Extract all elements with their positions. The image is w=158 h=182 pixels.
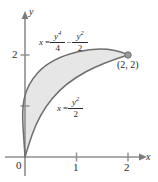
lower-eq-denominator: 2 xyxy=(68,108,83,119)
upper-eq-lhs: x xyxy=(39,38,43,47)
x-tick-label-2: 2 xyxy=(124,162,130,173)
lower-curve-equation: x = y2 2 xyxy=(57,98,81,119)
lower-eq-numerator: y2 xyxy=(70,98,81,108)
upper-eq-term2-denominator: 2 xyxy=(72,42,87,53)
origin-label: 0 xyxy=(16,160,22,171)
figure-canvas xyxy=(0,0,158,182)
upper-eq-term2-exponent: 2 xyxy=(80,29,83,36)
upper-curve-equation: x = y4 4 − y2 2 xyxy=(39,32,86,53)
lower-eq-lhs: x xyxy=(57,104,61,113)
y-axis-name: y xyxy=(29,7,33,17)
upper-eq-term1-denominator: 4 xyxy=(50,42,65,53)
upper-eq-operator: − xyxy=(66,38,71,47)
figure-region-between-curves: 0 1 2 2 x y (2, 2) x = y4 4 − y2 2 x = y… xyxy=(0,0,158,182)
y-axis-arrow xyxy=(22,11,29,19)
upper-eq-term1-numerator: y4 xyxy=(52,32,63,42)
upper-eq-term1: y4 4 xyxy=(52,32,63,53)
x-tick-label-1: 1 xyxy=(73,162,79,173)
intersection-point-marker xyxy=(125,52,131,58)
y-tick-label-2: 2 xyxy=(12,49,18,60)
lower-eq-exponent: 2 xyxy=(76,95,79,102)
x-axis-name: x xyxy=(146,152,150,162)
upper-eq-term2-numerator: y2 xyxy=(74,32,85,42)
lower-eq-fraction: y2 2 xyxy=(70,98,81,119)
upper-eq-term2: y2 2 xyxy=(74,32,85,53)
upper-eq-term1-exponent: 4 xyxy=(58,29,61,36)
intersection-point-label: (2, 2) xyxy=(117,60,139,70)
